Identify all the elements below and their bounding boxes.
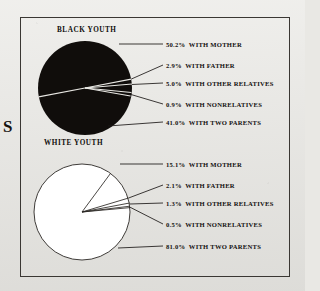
leader-line-black-father: [131, 65, 163, 79]
callout-text: WITH TWO PARENTS: [189, 243, 261, 250]
chart-title-white-youth: WHITE YOUTH: [44, 139, 103, 147]
leader-line-white-nonrelatives: [130, 207, 163, 224]
leader-line-black-other-relatives: [132, 83, 163, 85]
callout-text: WITH OTHER RELATIVES: [185, 200, 273, 207]
leader-line-black-nonrelatives: [131, 95, 163, 105]
callout-text: WITH FATHER: [185, 182, 235, 189]
callout-percent: 1.3%: [166, 200, 182, 207]
callout-white-youth-father: 2.1%WITH FATHER: [166, 182, 235, 189]
callout-black-youth-two-parents: 41.0%WITH TWO PARENTS: [166, 119, 261, 126]
callout-white-youth-mother: 15.1%WITH MOTHER: [166, 161, 242, 168]
callout-white-youth-other-relatives: 1.3%WITH OTHER RELATIVES: [166, 200, 274, 207]
leader-line-white-other-relatives: [130, 203, 163, 204]
callout-percent: 0.9%: [166, 101, 182, 108]
callout-percent: 15.1%: [166, 161, 185, 168]
callout-percent: 5.0%: [166, 80, 182, 87]
callout-percent: 41.0%: [166, 119, 185, 126]
callout-percent: 50.2%: [166, 41, 185, 48]
callout-text: WITH FATHER: [185, 62, 235, 69]
callout-white-youth-nonrelatives: 0.5%WITH NONRELATIVES: [166, 221, 262, 228]
leader-line-white-father: [129, 185, 163, 198]
callout-text: WITH MOTHER: [189, 161, 242, 168]
leader-line-white-two-parents: [118, 246, 163, 248]
callout-black-youth-father: 2.9%WITH FATHER: [166, 62, 235, 69]
callout-text: WITH TWO PARENTS: [189, 119, 261, 126]
callout-text: WITH NONRELATIVES: [185, 101, 262, 108]
pie-chart-white-youth: [34, 164, 163, 260]
callout-percent: 2.1%: [166, 182, 182, 189]
callout-black-youth-mother: 50.2%WITH MOTHER: [166, 41, 242, 48]
callout-percent: 0.5%: [166, 221, 182, 228]
callout-black-youth-other-relatives: 5.0%WITH OTHER RELATIVES: [166, 80, 274, 87]
callout-white-youth-two-parents: 81.0%WITH TWO PARENTS: [166, 243, 261, 250]
callout-black-youth-nonrelatives: 0.9%WITH NONRELATIVES: [166, 101, 262, 108]
chart-title-black-youth: BLACK YOUTH: [57, 26, 117, 34]
callout-text: WITH NONRELATIVES: [185, 221, 262, 228]
callout-text: WITH MOTHER: [189, 41, 242, 48]
callout-text: WITH OTHER RELATIVES: [185, 80, 273, 87]
pie-chart-black-youth: [38, 41, 163, 135]
callout-percent: 81.0%: [166, 243, 185, 250]
callout-percent: 2.9%: [166, 62, 182, 69]
